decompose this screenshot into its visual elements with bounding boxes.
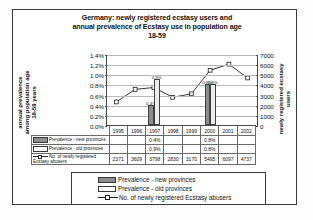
y-axis-right-tick-label: 0 — [260, 123, 263, 130]
bar-old-provinces-2000 — [210, 84, 216, 125]
gridline — [107, 116, 257, 117]
chart-legend: Prevalence - new provinces Prevalence - … — [71, 172, 266, 205]
y-axis-right-title-line-1: newly registered ecstasy — [278, 55, 285, 143]
y-axis-left-tick-label: 1.4% — [90, 52, 104, 59]
table-row-header: Prevalence - new provinces — [32, 136, 110, 145]
y-axis-right-tick-mark — [256, 96, 258, 97]
y-axis-right-tick-label: 6000 — [260, 62, 274, 69]
table-cell: 0.8% — [201, 145, 219, 154]
chart-title-line-1: Germany: newly registered ecstasy users … — [41, 14, 273, 23]
table-row-header: Prevalence - old provinces — [32, 145, 110, 154]
y-axis-right-tick-mark — [256, 106, 258, 107]
y-axis-left-tick-label: 1.0% — [90, 72, 104, 79]
y-axis-left-tick-label: 0.8% — [90, 82, 104, 89]
chart-frame: Germany: newly registered ecstasy users … — [12, 9, 297, 205]
y-axis-right-tick-label: 7000 — [260, 52, 274, 59]
y-axis-left-title-line-1: annual prevalence — [17, 59, 24, 147]
table-cell — [237, 136, 255, 145]
table-year-header-1997: 1997 — [146, 126, 164, 136]
table-cell — [164, 136, 182, 145]
y-axis-right-title-line-2: users — [285, 55, 292, 143]
table-swatch-new-provinces-icon — [33, 137, 48, 143]
table-cell — [182, 136, 200, 145]
y-axis-right-tick-mark — [256, 75, 258, 76]
y-axis-left-tick-mark — [105, 96, 107, 97]
table-cell: 3170 — [182, 154, 200, 165]
table-cell — [219, 136, 237, 145]
table-row-label: Prevalence - new provinces — [49, 137, 105, 142]
y-axis-right-tick-mark — [256, 85, 258, 86]
bar-value-label: 0.9% — [152, 75, 162, 80]
legend-line-marker-icon — [98, 194, 118, 201]
gridline — [107, 106, 257, 107]
y-axis-right-title: newly registered ecstasy users — [278, 55, 292, 143]
table-corner-cell — [32, 126, 110, 136]
line-marker-1995 — [114, 100, 118, 104]
gridline — [107, 75, 257, 76]
table-year-header-1996: 1996 — [127, 126, 145, 136]
chart-screenshot: Germany: newly registered ecstasy users … — [0, 0, 313, 220]
table-year-header-2000: 2000 — [201, 126, 219, 136]
legend-item-no-of-newly-registered-ecstasy-abusers[interactable]: No. of newly registered Ecstasy abusers — [72, 193, 265, 202]
table-cell: 5495 — [201, 154, 219, 165]
table-year-header-2002: 2002 — [237, 126, 255, 136]
table-cell: 0.4% — [146, 136, 164, 145]
chart-title: Germany: newly registered ecstasy users … — [41, 14, 273, 42]
gridline — [107, 65, 257, 66]
plot-area: 1.4%70001.2%60001.0%50000.8%40000.6%3000… — [106, 55, 256, 126]
legend-swatch-new-provinces-icon — [98, 177, 116, 183]
table-row: No. of newly registered Ecstasy abusers2… — [32, 154, 256, 165]
line-marker-2000 — [208, 68, 212, 72]
y-axis-left-tick-mark — [105, 106, 107, 107]
line-marker-2002 — [246, 76, 250, 80]
table-row: Prevalence - old provinces0.9%0.8% — [32, 145, 256, 154]
table-cell: 2371 — [109, 154, 127, 165]
y-axis-right-tick-mark — [256, 116, 258, 117]
bar-value-label: 0.8% — [208, 80, 218, 85]
table-cell — [164, 145, 182, 154]
y-axis-right-tick-label: 1000 — [260, 112, 274, 119]
table-row-header: No. of newly registered Ecstasy abusers — [32, 154, 110, 165]
y-axis-right-tick-mark — [256, 55, 258, 56]
line-marker-1996 — [133, 87, 137, 91]
table-cell: 3609 — [127, 154, 145, 165]
table-cell: 2830 — [164, 154, 182, 165]
table-cell — [237, 145, 255, 154]
table-cell — [109, 136, 127, 145]
table-cell — [182, 145, 200, 154]
y-axis-right-tick-label: 4000 — [260, 82, 274, 89]
y-axis-right-tick-label: 2000 — [260, 102, 274, 109]
table-year-header-row: 19951996199719981999200020012002 — [32, 126, 256, 136]
legend-label-prevalence-new-provinces: Prevalence - new provinces — [118, 176, 195, 183]
table-row: Prevalence - new provinces0.4%0.8% — [32, 136, 256, 145]
table-line-marker-icon — [33, 154, 48, 159]
y-axis-right-tick-mark — [256, 126, 258, 127]
y-axis-left-tick-mark — [105, 75, 107, 76]
y-axis-left-tick-mark — [105, 116, 107, 117]
y-axis-right-tick-label: 5000 — [260, 72, 274, 79]
legend-label-prevalence-old-provinces: Prevalence - old provinces — [118, 185, 192, 192]
table-cell — [219, 145, 237, 154]
table-cell: 0.8% — [201, 136, 219, 145]
chart-title-line-3: 18-59 — [41, 32, 273, 41]
y-axis-left-tick-mark — [105, 65, 107, 66]
y-axis-left-tick-label: 0.6% — [90, 92, 104, 99]
table-swatch-old-provinces-icon — [33, 146, 48, 152]
y-axis-left-tick-mark — [105, 55, 107, 56]
legend-item-prevalence-old-provinces[interactable]: Prevalence - old provinces — [72, 184, 265, 193]
table-cell — [127, 136, 145, 145]
gridline — [107, 96, 257, 97]
gridline — [107, 55, 257, 56]
table-cell: 3798 — [146, 154, 164, 165]
legend-swatch-old-provinces-icon — [98, 186, 116, 192]
table-cell — [127, 145, 145, 154]
table-cell: 0.9% — [146, 145, 164, 154]
table-cell: 4737 — [237, 154, 255, 165]
y-axis-left-tick-label: 0.2% — [90, 112, 104, 119]
data-table: 19951996199719981999200020012002Prevalen… — [31, 126, 256, 165]
legend-item-prevalence-new-provinces[interactable]: Prevalence - new provinces — [72, 175, 265, 184]
table-cell: 6097 — [219, 154, 237, 165]
table-row-label: Prevalence - old provinces — [49, 146, 103, 151]
table-year-header-2001: 2001 — [219, 126, 237, 136]
bar-old-provinces-1997 — [154, 79, 160, 125]
